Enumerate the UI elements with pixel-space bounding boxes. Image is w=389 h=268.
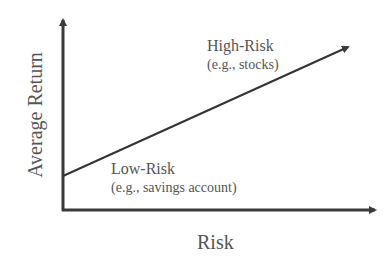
low-risk-example: (e.g., savings account) [111, 180, 237, 196]
y-axis-label: Average Return [24, 52, 47, 178]
low-risk-label: Low-Risk [111, 160, 175, 178]
high-risk-example: (e.g., stocks) [207, 57, 279, 73]
high-risk-label: High-Risk [207, 37, 274, 55]
x-axis-label: Risk [197, 231, 234, 254]
diagram-canvas [0, 0, 389, 268]
risk-return-line [63, 47, 348, 176]
